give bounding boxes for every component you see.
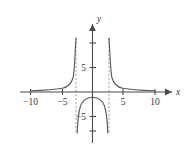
x-tick-label-10: 10 — [150, 97, 160, 107]
curve-right-branch — [109, 38, 155, 91]
y-tick-label-5: 5 — [81, 63, 86, 73]
x-tick-label-5: 5 — [121, 97, 126, 107]
figure-container: −10 −5 5 10 5 −5 x y — [0, 0, 192, 152]
rational-function-graph: −10 −5 5 10 5 −5 x y — [0, 0, 192, 152]
y-tick-label--5: −5 — [76, 112, 86, 122]
y-axis — [89, 24, 96, 143]
x-tick-label--5: −5 — [57, 97, 67, 107]
x-tick-label--10: −10 — [23, 97, 38, 107]
x-axis-label: x — [175, 87, 181, 97]
y-axis-arrowhead — [89, 24, 96, 31]
y-axis-label: y — [96, 14, 102, 24]
curve-left-branch — [31, 38, 77, 91]
x-axis — [20, 89, 172, 96]
x-axis-arrowhead — [165, 89, 172, 96]
